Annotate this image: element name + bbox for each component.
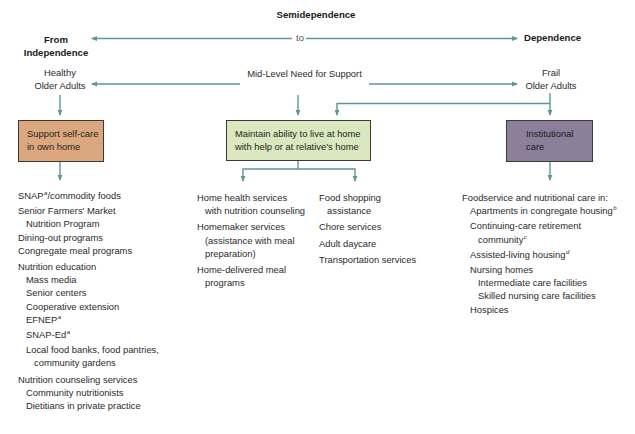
institutional-box-line2: care [526, 140, 592, 153]
list-item: preparation) [197, 247, 305, 260]
from-independence-label: From Independence [22, 33, 90, 59]
list-item: Nutrition education [18, 260, 159, 273]
list-item: Nutrition counseling services [18, 373, 159, 386]
institutional-services-list: Foodservice and nutritional care in: Apa… [462, 191, 617, 316]
list-item: Foodservice and nutritional care in: [462, 191, 617, 204]
list-item: Nursing homes [462, 263, 617, 276]
list-item: Cooperative extension [18, 300, 159, 313]
from-independence-line2: Independence [22, 46, 90, 59]
mid-level-need-label: Mid-Level Need for Support [240, 69, 369, 78]
arrow-frail-to-home [337, 104, 550, 116]
list-item: EFNEPa [18, 313, 159, 328]
list-item: Congregate meal programs [18, 244, 159, 257]
self-care-box-line2: in own home [27, 140, 103, 153]
self-care-box-line1: Support self-care [27, 127, 103, 140]
frail-line1: Frail [519, 66, 583, 79]
list-item: Assisted-living housingd [462, 248, 617, 263]
dependence-label: Dependence [524, 33, 581, 43]
list-item: Mass media [18, 273, 159, 286]
live-at-home-box: Maintain ability to live at home with he… [226, 120, 371, 161]
to-label: to [294, 33, 306, 42]
arrow-home-to-right-list [298, 169, 355, 181]
list-item: Dining-out programs [18, 231, 159, 244]
list-item: Senior Farmers' Market [18, 204, 159, 217]
institutional-box-line1: Institutional [526, 127, 592, 140]
self-care-services-list: SNAPa/commodity foods Senior Farmers' Ma… [18, 189, 159, 412]
list-item: Community nutritionists [18, 386, 159, 399]
list-item: assistance [319, 204, 416, 217]
frail-line2: Older Adults [519, 79, 583, 92]
list-item: Homemaker services [197, 220, 305, 233]
healthy-line2: Older Adults [28, 79, 92, 92]
home-services-list-right: Food shopping assistance Chore services … [319, 191, 416, 266]
list-item: Chore services [319, 220, 416, 233]
arrow-home-to-left-list [243, 169, 298, 181]
support-self-care-box: Support self-care in own home [18, 120, 104, 162]
live-at-home-box-line1: Maintain ability to live at home [235, 127, 370, 140]
list-item: Adult daycare [319, 237, 416, 250]
list-item: Nutrition Program [18, 217, 159, 230]
list-item: Food shopping [319, 191, 416, 204]
list-item: with nutrition counseling [197, 204, 305, 217]
healthy-line1: Healthy [28, 66, 92, 79]
list-item: Transportation services [319, 253, 416, 266]
institutional-care-box: Institutional care [506, 120, 593, 162]
list-item: Continuing-care retirement [462, 219, 617, 232]
list-item: Intermediate care facilities [462, 276, 617, 289]
frail-older-adults-label: Frail Older Adults [519, 66, 583, 92]
list-item: communityc [462, 233, 617, 248]
live-at-home-box-line2: with help or at relative's home [235, 140, 370, 153]
list-item: Home health services [197, 191, 305, 204]
healthy-older-adults-label: Healthy Older Adults [28, 66, 92, 92]
list-item: community gardens [18, 356, 159, 369]
list-item: programs [197, 276, 305, 289]
list-item: Home-delivered meal [197, 263, 305, 276]
list-item: (assistance with meal [197, 234, 305, 247]
list-item: SNAPa/commodity foods [18, 189, 159, 204]
list-item: Dietitians in private practice [18, 399, 159, 412]
list-item: Senior centers [18, 286, 159, 299]
list-item: SNAP-Eda [18, 328, 159, 343]
from-independence-line1: From [22, 33, 90, 46]
list-item: Local food banks, food pantries, [18, 343, 159, 356]
list-item: Hospices [462, 303, 617, 316]
semidependence-label: Semidependence [262, 10, 370, 20]
list-item: Skilled nursing care facilities [462, 289, 617, 302]
home-services-list-left: Home health services with nutrition coun… [197, 191, 305, 289]
list-item: Apartments in congregate housingb [462, 204, 617, 219]
